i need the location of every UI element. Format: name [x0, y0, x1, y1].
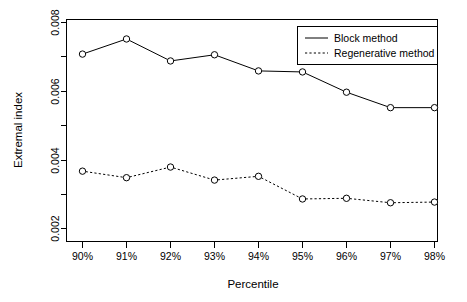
data-point: [79, 51, 85, 57]
series-segment: [394, 202, 432, 203]
series-segment: [305, 73, 343, 91]
chart-legend: Block method Regenerative method: [298, 27, 438, 65]
series-segment: [350, 93, 388, 106]
extremal-index-line-chart: 0.008 0.006 0.004 0.002 Extremal index 9…: [0, 0, 467, 302]
y-tick-label-0.006: 0.006: [49, 78, 61, 104]
series-segment: [306, 198, 344, 199]
series-segment: [262, 71, 300, 72]
series-segment: [218, 177, 256, 180]
series-regenerative-method: [79, 164, 437, 206]
x-tick-label-90: 90%: [72, 250, 93, 262]
data-point: [123, 36, 129, 42]
x-tick-label-98: 98%: [424, 250, 445, 262]
data-point: [431, 104, 437, 110]
legend-label-block-method: Block method: [334, 32, 398, 44]
data-point: [211, 177, 217, 183]
data-point: [387, 200, 393, 206]
data-point: [431, 199, 437, 205]
y-axis-ticks: [61, 23, 67, 229]
x-tick-label-93: 93%: [204, 250, 225, 262]
data-point: [79, 168, 85, 174]
data-point: [123, 174, 129, 180]
series-segment: [218, 56, 256, 70]
data-point: [211, 52, 217, 58]
x-axis-title: Percentile: [227, 278, 278, 290]
x-tick-label-95: 95%: [292, 250, 313, 262]
y-axis-title: Extremal index: [12, 92, 24, 168]
data-point: [387, 104, 393, 110]
x-tick-label-91: 91%: [116, 250, 137, 262]
x-axis-ticks: [83, 242, 435, 248]
series-segment: [350, 199, 388, 203]
x-tick-label-96: 96%: [336, 250, 357, 262]
data-point: [343, 89, 349, 95]
series-segment: [261, 178, 299, 198]
series-segment: [174, 168, 212, 179]
data-point: [167, 58, 173, 64]
series-segment: [130, 168, 168, 177]
series-segment: [86, 172, 124, 178]
data-point: [299, 69, 305, 75]
y-tick-label-0.008: 0.008: [49, 9, 61, 35]
series-segment: [86, 40, 124, 53]
x-tick-label-97: 97%: [380, 250, 401, 262]
data-point: [255, 173, 261, 179]
series-segment: [174, 55, 212, 60]
series-segment: [129, 40, 167, 59]
x-tick-label-94: 94%: [248, 250, 269, 262]
chart-container: 0.008 0.006 0.004 0.002 Extremal index 9…: [0, 0, 467, 302]
y-tick-label-0.002: 0.002: [49, 215, 61, 241]
data-point: [167, 164, 173, 170]
data-point: [343, 195, 349, 201]
y-tick-label-0.004: 0.004: [49, 147, 61, 173]
data-point: [299, 196, 305, 202]
legend-label-regenerative-method: Regenerative method: [334, 47, 435, 59]
data-point: [255, 68, 261, 74]
x-tick-label-92: 92%: [160, 250, 181, 262]
